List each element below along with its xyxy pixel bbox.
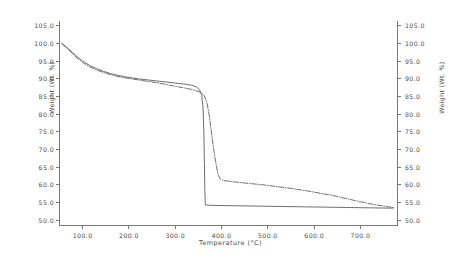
- tga-chart-figure: 50.055.060.065.070.075.080.085.090.095.0…: [0, 0, 461, 262]
- y-tick-label-right: 85.0: [405, 93, 420, 100]
- x-axis-title: Temperature (°C): [0, 239, 461, 247]
- series-line-solid-curve: [62, 43, 393, 208]
- y-tick-label: 55.0: [31, 199, 54, 206]
- series-line-dash-dot-curve: [62, 43, 395, 207]
- y-tick-label: 100.0: [31, 40, 54, 47]
- x-tick-label: 400.0: [208, 232, 236, 239]
- x-tick-label: 600.0: [300, 232, 328, 239]
- y-tick-label: 105.0: [31, 22, 54, 29]
- y-tick-label-right: 75.0: [405, 128, 420, 135]
- x-tick-label: 500.0: [254, 232, 282, 239]
- y-tick-label: 65.0: [31, 164, 54, 171]
- y-axis-title-right: Weight (Wt. %): [438, 51, 445, 125]
- y-tick-label-right: 60.0: [405, 181, 420, 188]
- x-tick-label: 100.0: [69, 232, 97, 239]
- y-tick-label-right: 65.0: [405, 164, 420, 171]
- y-tick-label: 60.0: [31, 181, 54, 188]
- y-tick-label-right: 90.0: [405, 75, 420, 82]
- y-axis-title-left: Weight (Wt. %): [48, 51, 55, 125]
- y-tick-label-right: 105.0: [405, 22, 425, 29]
- axis-ticks: [56, 26, 401, 229]
- data-series: [62, 43, 395, 208]
- y-tick-label-right: 80.0: [405, 111, 420, 118]
- x-tick-label: 200.0: [115, 232, 143, 239]
- y-tick-label-right: 95.0: [405, 58, 420, 65]
- x-tick-label: 700.0: [346, 232, 374, 239]
- axis-frame: [60, 21, 398, 226]
- y-tick-label-right: 50.0: [405, 217, 420, 224]
- x-tick-label: 300.0: [161, 232, 189, 239]
- y-tick-label: 70.0: [31, 146, 54, 153]
- y-tick-label: 50.0: [31, 217, 54, 224]
- y-tick-label-right: 70.0: [405, 146, 420, 153]
- y-tick-label: 75.0: [31, 128, 54, 135]
- plot-canvas: [0, 0, 461, 262]
- y-tick-label-right: 55.0: [405, 199, 420, 206]
- y-tick-label-right: 100.0: [405, 40, 425, 47]
